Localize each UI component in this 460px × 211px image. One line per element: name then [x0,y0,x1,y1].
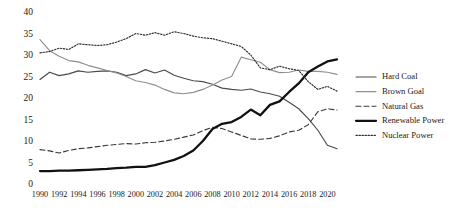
x-tick-label: 2018 [300,190,316,199]
series-line-natural-gas [40,109,337,153]
y-tick-label: 20 [24,93,34,103]
x-axis-tick-labels: 1990199219941996199820002002200420062008… [32,190,336,199]
series-line-nuclear-power [40,32,337,91]
x-tick-label: 2006 [185,190,201,199]
series-line-renewable-power [40,59,337,171]
y-tick-label: 15 [24,115,34,125]
legend-label: Nuclear Power [382,130,433,140]
x-tick-label: 2020 [319,190,335,199]
x-tick-label: 1990 [32,190,48,199]
series-line-hard-coal [40,70,337,149]
y-tick-label: 5 [28,158,33,168]
x-tick-label: 1998 [108,190,124,199]
x-tick-label: 2010 [223,190,239,199]
series-line-brown-goal [40,40,337,94]
x-tick-label: 2002 [147,190,163,199]
legend-label: Natural Gas [382,101,424,111]
x-tick-label: 2000 [128,190,144,199]
y-tick-label: 10 [24,136,34,146]
legend-label: Renewable Power [382,115,444,125]
x-tick-label: 2016 [281,190,297,199]
y-axis-tick-labels: 0510152025303540 [24,7,34,189]
x-tick-label: 1994 [70,190,86,199]
x-tick-label: 2004 [166,190,182,199]
y-tick-label: 40 [24,7,34,17]
x-tick-label: 2014 [262,190,278,199]
y-tick-label: 25 [24,72,34,82]
chart-legend: Hard CoalBrown GoalNatural GasRenewable … [356,71,444,139]
y-tick-label: 35 [24,29,34,39]
line-chart: 0510152025303540 19901992199419961998200… [0,0,460,211]
y-tick-label: 0 [28,179,33,189]
legend-label: Brown Goal [382,86,425,96]
series-lines [40,32,337,171]
legend-label: Hard Coal [382,71,418,81]
chart-canvas: 0510152025303540 19901992199419961998200… [0,0,460,211]
x-tick-label: 1996 [89,190,105,199]
x-tick-label: 1992 [51,190,67,199]
x-tick-label: 2008 [204,190,220,199]
x-tick-label: 2012 [243,190,259,199]
y-tick-label: 30 [24,50,34,60]
